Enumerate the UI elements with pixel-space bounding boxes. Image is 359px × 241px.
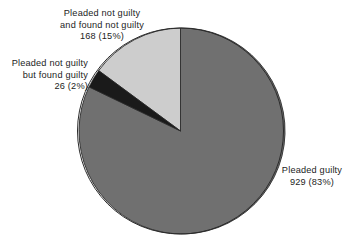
slice-label-pleaded-not-guilty-and-found-not-guilty: Pleaded not guilty and found not guilty … xyxy=(36,8,168,43)
label-line-1: Pleaded guilty xyxy=(268,165,356,177)
pie-chart-figure: Pleaded not guilty and found not guilty … xyxy=(0,0,359,241)
label-line-1: Pleaded not guilty xyxy=(2,58,88,70)
slice-label-pleaded-guilty: Pleaded guilty 929 (83%) xyxy=(268,165,356,188)
label-value: 26 (2%) xyxy=(2,81,88,93)
slice-label-pleaded-not-guilty-but-found-guilty: Pleaded not guilty but found guilty 26 (… xyxy=(2,58,88,93)
label-line-2: but found guilty xyxy=(2,70,88,82)
label-line-2: and found not guilty xyxy=(36,20,168,32)
label-line-1: Pleaded not guilty xyxy=(36,8,168,20)
label-value: 168 (15%) xyxy=(36,31,168,43)
label-value: 929 (83%) xyxy=(268,177,356,189)
